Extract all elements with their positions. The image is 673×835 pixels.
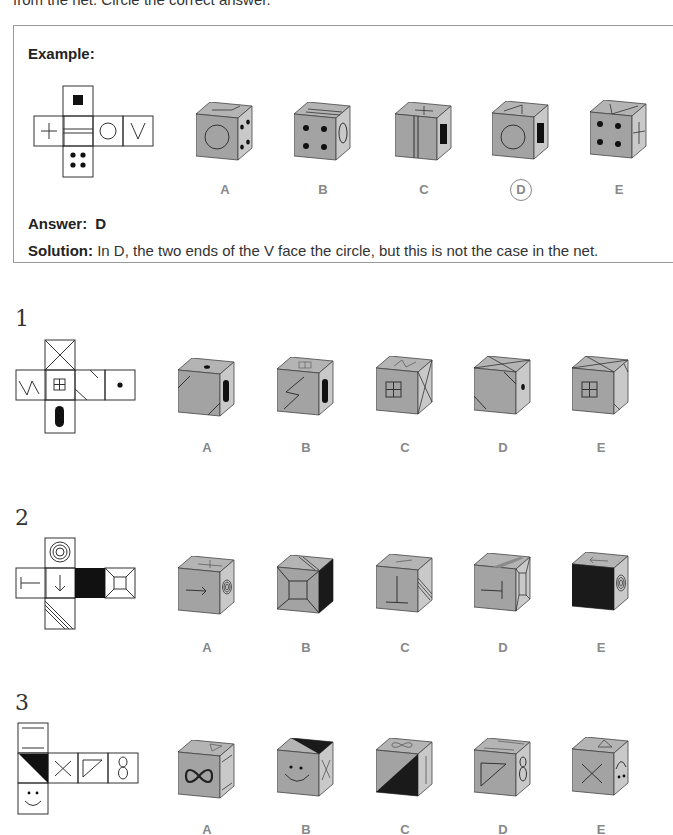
question-1-option-b-label[interactable]: B — [296, 440, 316, 455]
answer-value: D — [95, 215, 106, 232]
example-cube-a[interactable] — [196, 102, 254, 162]
question-1-cube-e[interactable] — [572, 356, 630, 416]
question-2-option-a-label[interactable]: A — [197, 640, 217, 655]
intro-text: from the net. Circle the correct answer. — [13, 0, 271, 8]
question-2-net — [15, 537, 137, 633]
example-option-b-label[interactable]: B — [313, 182, 333, 197]
question-2-option-b-label[interactable]: B — [296, 640, 316, 655]
question-3-option-a-label[interactable]: A — [197, 822, 217, 835]
question-2-cube-b[interactable] — [277, 555, 335, 615]
question-2-option-e-label[interactable]: E — [591, 640, 611, 655]
question-1-option-e-label[interactable]: E — [591, 440, 611, 455]
question-2-cube-c[interactable] — [376, 554, 434, 614]
example-option-c-label[interactable]: C — [414, 182, 434, 197]
question-2-cube-a[interactable] — [178, 556, 236, 616]
question-3-cube-d[interactable] — [474, 738, 532, 798]
question-1-cube-c[interactable] — [376, 356, 434, 416]
question-1-option-a-label[interactable]: A — [197, 440, 217, 455]
solution-label: Solution: — [28, 242, 93, 259]
solution-row: Solution: In D, the two ends of the V fa… — [28, 242, 598, 259]
question-2-number: 2 — [15, 505, 29, 530]
question-2-cube-e[interactable] — [572, 552, 630, 612]
question-2-option-c-label[interactable]: C — [395, 640, 415, 655]
example-cube-e[interactable] — [590, 100, 648, 160]
question-3-option-e-label[interactable]: E — [591, 822, 611, 835]
example-net — [33, 85, 155, 179]
question-1-option-c-label[interactable]: C — [395, 440, 415, 455]
example-cube-d[interactable] — [492, 101, 550, 161]
question-1-cube-a[interactable] — [178, 358, 236, 418]
example-option-e-label[interactable]: E — [609, 182, 629, 197]
question-1-option-d-label[interactable]: D — [493, 440, 513, 455]
solution-text: In D, the two ends of the V face the cir… — [97, 242, 598, 259]
example-option-a-label[interactable]: A — [215, 182, 235, 197]
example-cube-c[interactable] — [395, 102, 453, 162]
question-1-cube-b[interactable] — [277, 357, 335, 417]
question-3-option-d-label[interactable]: D — [493, 822, 513, 835]
question-3-cube-a[interactable] — [178, 740, 236, 800]
question-3-option-c-label[interactable]: C — [395, 822, 415, 835]
question-1-net — [15, 339, 137, 435]
question-3-cube-e[interactable] — [572, 737, 630, 797]
question-1-cube-d[interactable] — [474, 356, 532, 416]
question-3-number: 3 — [15, 690, 29, 715]
question-3-net — [17, 722, 139, 816]
question-1-number: 1 — [15, 306, 29, 331]
example-cube-b[interactable] — [294, 102, 352, 162]
question-2-cube-d[interactable] — [474, 553, 532, 613]
question-2-option-d-label[interactable]: D — [493, 640, 513, 655]
answer-row: Answer:D — [28, 215, 106, 232]
question-3-cube-b[interactable] — [277, 738, 335, 798]
question-3-cube-c[interactable] — [376, 738, 434, 798]
answer-label: Answer: — [28, 215, 87, 232]
example-option-d-label-circled[interactable]: D — [510, 179, 532, 201]
question-3-option-b-label[interactable]: B — [296, 822, 316, 835]
example-title: Example: — [28, 45, 95, 62]
